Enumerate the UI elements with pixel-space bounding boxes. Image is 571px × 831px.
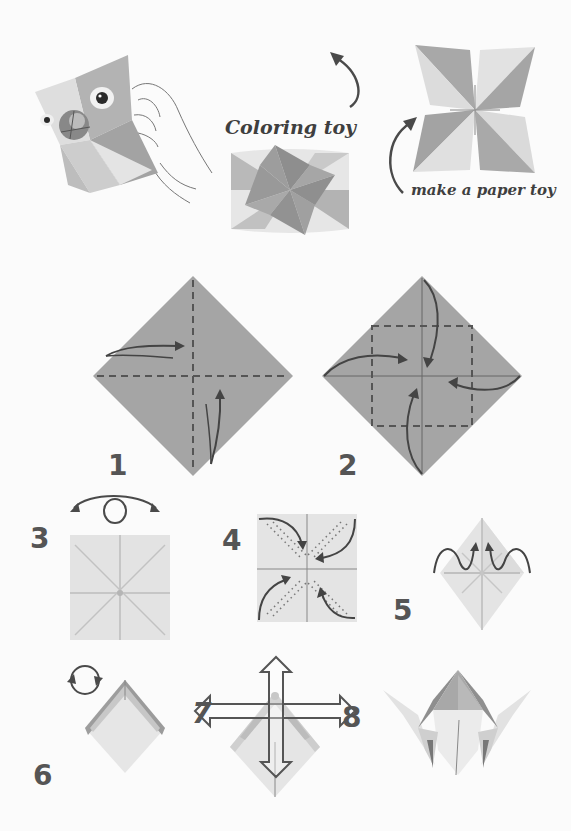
step-2-diagram: [322, 276, 522, 476]
finished-toy-illustration: [410, 45, 540, 175]
step-number-5: 5: [393, 597, 412, 625]
step-7-diagram: [190, 652, 366, 797]
curved-arrow-icon: [330, 52, 380, 112]
step-number-6: 6: [33, 762, 52, 790]
step-number-8: 8: [342, 704, 361, 732]
step-1-diagram: [93, 276, 293, 476]
step-number-7: 7: [192, 700, 211, 728]
step-4-diagram: [257, 514, 357, 622]
step-3-diagram: [70, 535, 170, 640]
hand-icon: [132, 84, 212, 203]
step-number-2: 2: [338, 452, 357, 480]
step-number-4: 4: [222, 527, 241, 555]
make-paper-toy-label: make a paper toy: [411, 183, 556, 198]
step-5-diagram: [432, 518, 532, 630]
step-number-3: 3: [30, 525, 49, 553]
step-number-1: 1: [108, 452, 127, 480]
spread-arrows-icon: [195, 657, 355, 777]
step-8-diagram: [383, 670, 533, 775]
turn-over-icon: [68, 492, 164, 532]
hero-bird-illustration: [30, 55, 230, 215]
step-6-diagram: [80, 680, 170, 775]
coloring-toy-illustration: [225, 125, 355, 255]
